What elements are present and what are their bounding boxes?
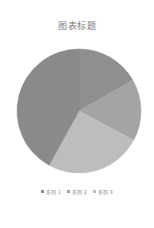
- chart-legend: 系列 1 系列 2 系列 3: [0, 188, 154, 195]
- legend-swatch-icon: [41, 190, 44, 193]
- legend-item-series-2: 系列 2: [67, 188, 87, 195]
- legend-label: 系列 3: [98, 188, 113, 195]
- legend-label: 系列 1: [46, 188, 61, 195]
- legend-swatch-icon: [67, 190, 70, 193]
- legend-item-series-1: 系列 1: [41, 188, 61, 195]
- legend-swatch-icon: [93, 190, 96, 193]
- legend-label: 系列 2: [72, 188, 87, 195]
- legend-item-series-3: 系列 3: [93, 188, 113, 195]
